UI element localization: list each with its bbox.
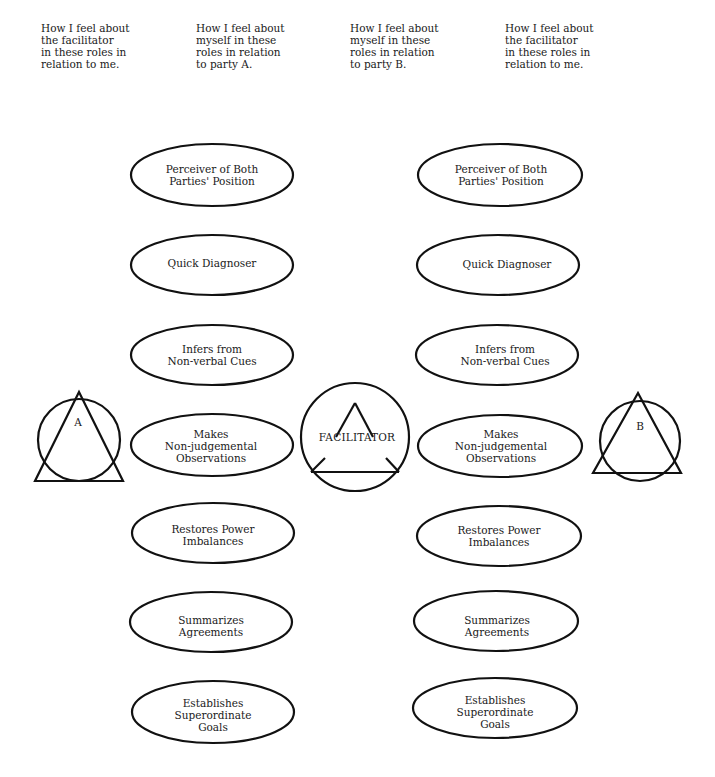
left-role-label-4: Makes Non-judgemental Observations <box>165 428 257 464</box>
party-b-symbol <box>593 393 681 481</box>
left-role-label-7: Establishes Superordinate Goals <box>175 697 252 733</box>
right-role-label-2: Quick Diagnoser <box>463 258 552 270</box>
left-role-label-1: Perceiver of Both Parties' Position <box>166 163 258 187</box>
right-role-label-6: Summarizes Agreements <box>464 614 530 638</box>
party-b-label: B <box>636 420 644 432</box>
party-a-symbol <box>35 392 123 481</box>
left-role-label-3: Infers from Non-verbal Cues <box>167 343 256 367</box>
left-role-label-6: Summarizes Agreements <box>178 614 244 638</box>
right-role-label-1: Perceiver of Both Parties' Position <box>455 163 547 187</box>
right-role-label-7: Establishes Superordinate Goals <box>457 694 534 730</box>
party-a-circle-icon <box>38 399 120 481</box>
left-role-label-2: Quick Diagnoser <box>168 257 257 269</box>
right-role-label-4: Makes Non-judgemental Observations <box>455 428 547 464</box>
left-role-label-5: Restores Power Imbalances <box>171 523 254 547</box>
right-role-label-3: Infers from Non-verbal Cues <box>460 343 549 367</box>
role-diagram <box>0 0 715 777</box>
facilitator-label: FACILITATOR <box>319 431 395 443</box>
party-a-label: A <box>74 416 82 428</box>
right-role-label-5: Restores Power Imbalances <box>457 524 540 548</box>
